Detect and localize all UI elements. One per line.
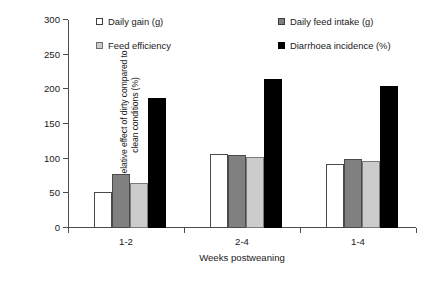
y-tick-mark (63, 123, 68, 124)
y-tick-mark (63, 54, 68, 55)
legend-swatch-icon (278, 42, 285, 49)
legend-swatch-icon (96, 42, 103, 49)
bar (94, 192, 112, 228)
x-axis-title: Weeks postweaning (68, 252, 416, 263)
x-tick-label: 1-4 (351, 236, 365, 247)
legend-label: Daily gain (g) (108, 16, 163, 27)
bar (148, 98, 166, 228)
bar (344, 159, 362, 228)
y-tick-label: 0 (55, 222, 60, 233)
y-tick-group: 200 (68, 88, 69, 89)
y-tick-label: 100 (44, 152, 60, 163)
bar (130, 183, 148, 228)
legend-swatch-icon (96, 18, 103, 25)
y-tick-group: 150 (68, 123, 69, 124)
y-tick-label: 250 (44, 48, 60, 59)
legend-item-feed-efficiency: Feed efficiency (96, 40, 171, 51)
y-tick-group: 100 (68, 158, 69, 159)
y-tick-label: 50 (49, 187, 60, 198)
y-tick-mark (63, 192, 68, 193)
bar (264, 79, 282, 228)
y-tick-label: 150 (44, 118, 60, 129)
bar (380, 86, 398, 228)
bar (228, 155, 246, 228)
legend-item-diarrhoea-incidence: Diarrhoea incidence (%) (278, 40, 391, 51)
y-tick-group: 300 (68, 19, 69, 20)
x-tick-mark (300, 228, 301, 233)
legend-label: Daily feed intake (g) (290, 16, 373, 27)
y-tick-mark (63, 19, 68, 20)
x-tick-mark (68, 228, 69, 233)
x-tick-label: 2-4 (235, 236, 249, 247)
bar (112, 174, 130, 228)
bar-chart-figure: Relative effect of dirty compared to cle… (0, 0, 426, 281)
y-tick-group: 250 (68, 54, 69, 55)
y-tick-mark (63, 88, 68, 89)
y-tick-label: 300 (44, 14, 60, 25)
chart-legend: Daily gain (g) Feed efficiency Daily fee… (96, 16, 416, 62)
y-tick-mark (63, 158, 68, 159)
y-axis-line (68, 20, 69, 228)
bar (326, 164, 344, 228)
bar (246, 157, 264, 228)
x-tick-mark (184, 228, 185, 233)
legend-label: Feed efficiency (108, 40, 171, 51)
legend-swatch-icon (278, 18, 285, 25)
x-tick-label: 1-2 (119, 236, 133, 247)
legend-label: Diarrhoea incidence (%) (290, 40, 391, 51)
x-tick-mark (416, 228, 417, 233)
legend-item-daily-gain: Daily gain (g) (96, 16, 163, 27)
bar (210, 154, 228, 228)
legend-item-daily-feed-intake: Daily feed intake (g) (278, 16, 373, 27)
bar (362, 161, 380, 228)
y-tick-label: 200 (44, 83, 60, 94)
y-tick-group: 50 (68, 192, 69, 193)
